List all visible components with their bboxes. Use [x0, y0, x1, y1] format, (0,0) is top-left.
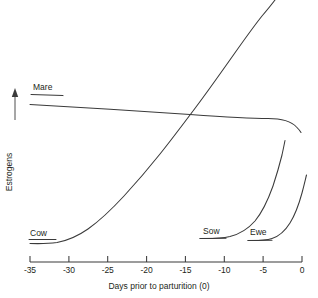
- curve-sow: [200, 141, 285, 239]
- curve-cow: [30, 0, 275, 244]
- x-tick-label-zero: 0: [300, 265, 305, 275]
- x-tick-label-minus25: -25: [102, 265, 114, 275]
- x-tick-label-minus10: -10: [218, 265, 230, 275]
- curve-mare: [30, 105, 301, 133]
- chart-plot-area: [0, 0, 318, 298]
- x-tick-label-minus30: -30: [63, 265, 75, 275]
- x-tick-label-minus35: -35: [24, 265, 36, 275]
- y-axis-title: Estrogens: [4, 142, 14, 202]
- series-label-cow: Cow: [30, 228, 47, 238]
- x-tick-label-minus5: -5: [259, 265, 266, 275]
- x-tick-label-minus20: -20: [141, 265, 153, 275]
- series-label-sow: Sow: [203, 226, 220, 236]
- estrogens-parturition-chart: -35 -30 -25 -20 -15 -10 -5 0 Days prior …: [0, 0, 318, 298]
- series-label-mare: Mare: [33, 82, 52, 92]
- x-tick-label-minus15: -15: [179, 265, 191, 275]
- x-axis-title: Days prior to parturition (0): [108, 281, 209, 291]
- y-axis-arrow-head: [12, 88, 18, 97]
- label-leader-mare: [31, 95, 63, 96]
- series-label-ewe: Ewe: [250, 227, 267, 237]
